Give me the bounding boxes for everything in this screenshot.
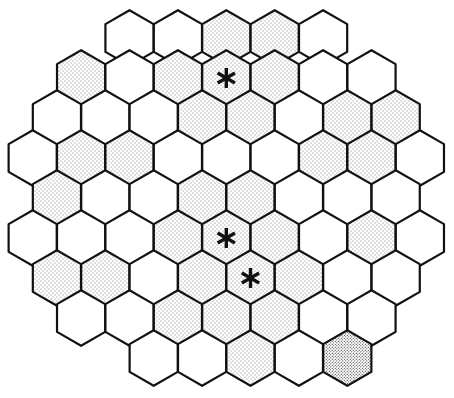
hex-grid-diagram [0, 0, 454, 398]
hex-cells [9, 10, 444, 386]
